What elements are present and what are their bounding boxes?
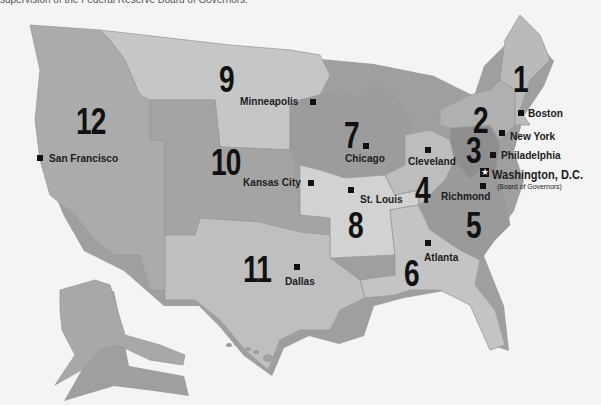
district-number-3: 3	[466, 133, 481, 169]
city-label-kansas-city[interactable]: Kansas City	[243, 177, 301, 188]
atlanta-marker-icon	[425, 240, 431, 246]
district-number-9: 9	[219, 62, 234, 98]
star-icon: ★	[480, 168, 489, 177]
district-number-8: 8	[348, 208, 363, 244]
city-label-atlanta[interactable]: Atlanta	[424, 252, 458, 263]
city-label-washington-dc[interactable]: Washington, D.C.	[492, 169, 583, 181]
district-number-11: 11	[243, 252, 271, 288]
district-number-5: 5	[466, 208, 481, 244]
chicago-marker-icon	[363, 143, 369, 149]
san-francisco-marker-icon	[37, 155, 43, 161]
board-of-governors-note: (Board of Governors)	[497, 183, 562, 191]
city-label-san-francisco[interactable]: San Francisco	[49, 153, 118, 164]
city-label-richmond[interactable]: Richmond	[441, 191, 490, 202]
district-number-7: 7	[344, 118, 359, 154]
district-number-1: 1	[513, 62, 528, 98]
richmond-marker-icon	[480, 183, 486, 189]
minneapolis-marker-icon	[310, 99, 316, 105]
district-number-10: 10	[211, 145, 241, 181]
city-label-st-louis[interactable]: St. Louis	[360, 194, 403, 205]
city-label-minneapolis[interactable]: Minneapolis	[240, 96, 298, 107]
city-label-dallas[interactable]: Dallas	[285, 276, 315, 287]
city-label-boston[interactable]: Boston	[528, 108, 563, 119]
st-louis-marker-icon	[348, 187, 354, 193]
city-label-cleveland[interactable]: Cleveland	[408, 156, 456, 167]
boston-marker-icon	[518, 110, 524, 116]
kansas-city-marker-icon	[308, 180, 314, 186]
philadelphia-marker-icon	[490, 152, 496, 158]
city-label-chicago[interactable]: Chicago	[345, 153, 385, 164]
dallas-marker-icon	[294, 264, 300, 270]
cleveland-marker-icon	[425, 147, 431, 153]
new-york-marker-icon	[499, 130, 505, 136]
district-number-4: 4	[415, 173, 430, 209]
district-number-6: 6	[404, 256, 419, 292]
district-number-12: 12	[76, 104, 106, 140]
city-label-philadelphia[interactable]: Philadelphia	[501, 150, 561, 161]
city-label-new-york[interactable]: New York	[510, 131, 555, 142]
